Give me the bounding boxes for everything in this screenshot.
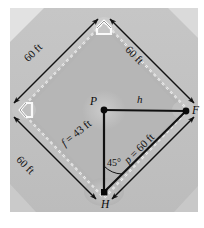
triangle-PFH [104,110,186,192]
vertex-label-first-base: F [192,105,199,117]
segment-p-home-to-first [104,111,186,192]
segment-label-h: h [137,94,143,105]
segment-label-h-variable: h [137,93,143,105]
diagram-overlay [0,0,204,228]
dimension-arrow-top-right [110,19,194,103]
vertex-dot-first-base [183,108,190,115]
segment-h-pitcher-to-first [104,110,186,111]
vertex-label-home-plate: H [101,199,109,211]
vertex-label-pitcher: P [90,96,97,108]
vertex-dot-home-plate [101,189,107,195]
angle-label-45: 45° [107,158,121,168]
baseball-diamond-figure: 60 ft 60 ft 60 ft f = 43 ft p = 60 ft h … [0,0,204,228]
vertex-dot-pitcher [101,107,108,114]
